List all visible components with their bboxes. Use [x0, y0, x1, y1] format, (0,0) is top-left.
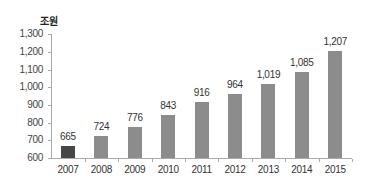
y-tick-label: 1,300: [3, 28, 43, 39]
bar-2009: [128, 127, 142, 158]
x-tick: [352, 159, 353, 162]
x-tick: [319, 159, 320, 162]
y-tick-label: 900: [3, 99, 43, 110]
y-tick-label: 800: [3, 117, 43, 128]
bar-2013: [261, 84, 275, 158]
bar-value-label: 964: [215, 79, 255, 90]
bar-value-label: 1,085: [282, 57, 322, 68]
y-tick-label: 700: [3, 134, 43, 145]
bar-value-label: 1,019: [248, 69, 288, 80]
x-tick: [252, 159, 253, 162]
x-tick: [85, 159, 86, 162]
x-tick: [285, 159, 286, 162]
y-tick: [48, 123, 51, 124]
y-tick: [48, 105, 51, 106]
bar-2011: [195, 102, 209, 158]
y-tick-label: 1,200: [3, 46, 43, 57]
bar-2010: [161, 115, 175, 158]
x-tick: [118, 159, 119, 162]
y-tick-label: 1,000: [3, 81, 43, 92]
bar-value-label: 776: [115, 112, 155, 123]
y-tick: [48, 70, 51, 71]
x-tick: [218, 159, 219, 162]
x-tick: [152, 159, 153, 162]
bar-2014: [295, 72, 309, 158]
x-tick: [185, 159, 186, 162]
bar-2008: [94, 136, 108, 158]
bar-2007: [61, 146, 75, 158]
bar-value-label: 843: [148, 100, 188, 111]
y-axis-unit-label: 조원: [40, 13, 58, 28]
y-tick: [48, 34, 51, 35]
y-tick: [48, 87, 51, 88]
bar-chart: 조원 6007008009001,0001,1001,2001,300 2007…: [0, 0, 371, 187]
x-tick-label: 2015: [315, 164, 355, 175]
y-tick-label: 600: [3, 152, 43, 163]
y-tick: [48, 52, 51, 53]
y-tick-label: 1,100: [3, 64, 43, 75]
bar-2015: [328, 51, 342, 158]
bar-value-label: 665: [48, 131, 88, 142]
x-axis-line: [51, 158, 352, 159]
bar-2012: [228, 94, 242, 158]
bar-value-label: 1,207: [315, 36, 355, 47]
